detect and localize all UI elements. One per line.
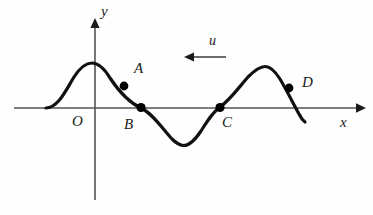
origin-label: O <box>72 114 83 129</box>
velocity-label: u <box>209 34 216 48</box>
point-label-b: B <box>124 117 133 132</box>
velocity-arrow-head-icon <box>184 53 194 62</box>
point-marker-b <box>136 103 145 112</box>
wave-diagram-figure: y x O u A B C D <box>0 0 373 215</box>
point-marker-c <box>215 103 224 112</box>
y-axis-label: y <box>101 4 108 19</box>
y-axis-arrowhead-icon <box>90 18 99 28</box>
point-marker-a <box>120 82 129 91</box>
wave-curve <box>46 63 305 146</box>
graph-canvas <box>0 0 373 215</box>
point-label-c: C <box>222 115 232 130</box>
point-label-a: A <box>134 61 143 76</box>
point-label-d: D <box>302 75 313 90</box>
x-axis-label: x <box>340 115 347 130</box>
point-marker-d <box>285 84 294 93</box>
x-axis-arrowhead-icon <box>356 103 366 113</box>
